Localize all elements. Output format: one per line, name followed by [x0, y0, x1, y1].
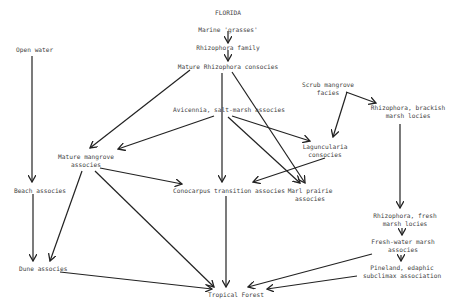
edge-scrub-to-laguncularia — [333, 92, 347, 137]
node-beach-associes: Beach associes — [14, 187, 66, 195]
node-open-water: Open water — [16, 46, 53, 54]
edge-freshwater-marsh-to-forest — [248, 254, 372, 287]
node-pineland-edaphic: Pineland, edaphic subclimax association — [363, 264, 441, 280]
edge-dune-to-forest — [60, 272, 212, 289]
succession-diagram: FLORIDA Marine 'grasses' Rhizophora fami… — [0, 0, 457, 307]
node-marine-grasses: Marine 'grasses' — [198, 26, 258, 34]
diagram-title: FLORIDA — [215, 9, 241, 17]
node-rhizophora-family: Rhizophora family — [196, 44, 259, 52]
node-tropical-forest: Tropical Forest — [208, 291, 264, 299]
node-mature-mangrove-associes: Mature mangrove associes — [58, 153, 114, 169]
node-scrub-mangrove-facies: Scrub mangrove facies — [302, 81, 354, 97]
node-marl-prairie-associes: Marl prairie associes — [288, 187, 333, 203]
node-avicennia-salt-marsh: Avicennia, salt-marsh associes — [173, 106, 285, 114]
node-fresh-water-marsh: Fresh-water marsh associes — [371, 238, 434, 254]
edge-avicennia-to-mature-mangrove — [118, 116, 214, 149]
edge-laguncularia-to-conocarpus — [253, 158, 325, 182]
edge-avicennia-to-marl — [228, 117, 300, 183]
edge-mature-mangrove-to-conocarpus — [100, 168, 182, 184]
edge-avicennia-to-laguncularia — [232, 116, 310, 141]
node-mature-rhizophora-consocies: Mature Rhizophora consocies — [178, 63, 279, 71]
edge-mature-mangrove-to-dune — [50, 171, 82, 261]
node-rhizophora-brackish: Rhizophora, brackish marsh locies — [371, 104, 446, 120]
node-rhizophora-fresh: Rhizophora, fresh marsh locies — [373, 212, 436, 228]
node-laguncularia-consocies: Laguncularia consocies — [303, 143, 348, 159]
node-dune-associes: Dune associes — [19, 265, 67, 273]
node-conocarpus-transition: Conocarpus transition associes — [173, 187, 285, 195]
